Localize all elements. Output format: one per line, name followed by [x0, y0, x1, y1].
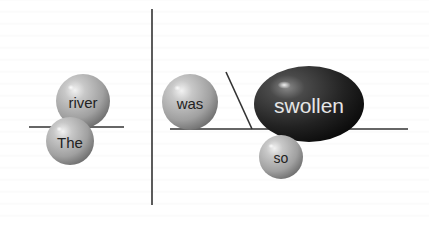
sentence-diagram: riverThewasswollenso	[0, 0, 429, 226]
node-was: was	[162, 74, 218, 130]
node-label-was: was	[176, 95, 204, 112]
specular-highlight	[268, 144, 274, 148]
diagram-nodes: riverThewasswollenso	[46, 66, 364, 179]
node-label-so: so	[274, 150, 289, 166]
node-label-the: The	[57, 134, 83, 151]
specular-highlight	[278, 81, 291, 89]
node-label-river: river	[68, 94, 97, 111]
specular-highlight	[68, 85, 74, 90]
node-the: The	[46, 117, 94, 165]
node-so: so	[259, 135, 303, 179]
node-label-swollen: swollen	[274, 94, 344, 117]
node-swollen: swollen	[254, 66, 364, 142]
specular-highlight	[174, 85, 181, 91]
specular-highlight	[56, 127, 62, 132]
complement-slash-line	[226, 72, 252, 129]
